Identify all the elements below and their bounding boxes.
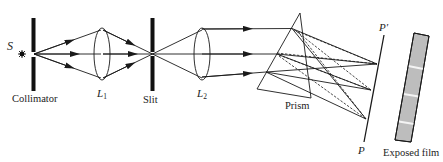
rays-dispersed-solid <box>266 29 377 120</box>
plate-top-label: P′ <box>378 21 389 33</box>
slit-label: Slit <box>143 94 158 105</box>
film-label: Exposed film <box>383 147 439 158</box>
light-source <box>18 50 26 58</box>
lens-l1-label: L1 <box>96 87 107 101</box>
rays-lens2-to-prism <box>202 29 292 78</box>
source-label: S <box>7 39 13 53</box>
spectrograph-diagram: S Collimator L1 Slit L2 <box>0 0 443 162</box>
rays-source-to-lens1 <box>34 30 101 78</box>
exposed-film <box>395 33 429 142</box>
prism-label: Prism <box>285 100 310 111</box>
lens-l2-label: L2 <box>196 87 207 101</box>
collimator-label: Collimator <box>12 93 58 104</box>
plate-bottom-label: P <box>357 144 365 156</box>
diagram-canvas: S Collimator L1 Slit L2 <box>0 0 443 162</box>
